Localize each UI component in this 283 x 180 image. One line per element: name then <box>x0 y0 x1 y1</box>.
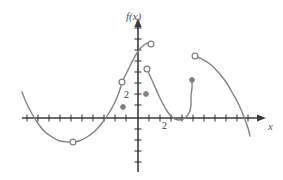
y-axis-tick-label-2: 2 <box>124 89 129 100</box>
x-axis-arrow <box>257 114 266 121</box>
filled-dot-marker <box>121 105 126 110</box>
curve-branch-5-right-arch <box>195 56 250 136</box>
x-axis-tick-label-2: 2 <box>162 120 167 131</box>
curve-branch-1-left-parabola <box>22 82 122 142</box>
open-circle-marker <box>144 66 150 72</box>
function-graph-figure: f(x) x 2 2 <box>0 0 283 180</box>
curve-branch-2-rise-to-peak <box>122 43 151 82</box>
open-circle-marker <box>148 41 154 47</box>
filled-dot-marker <box>190 78 195 83</box>
plot-canvas <box>0 0 283 180</box>
filled-dot-marker <box>144 92 149 97</box>
x-axis-label: x <box>268 120 273 132</box>
y-axis-label: f(x) <box>126 10 141 22</box>
open-circle-marker <box>70 139 76 145</box>
curve-branch-3-descend-to-valley <box>147 69 190 120</box>
open-circle-marker <box>192 53 198 59</box>
open-circle-marker <box>119 79 125 85</box>
curve-branches-group <box>22 43 250 142</box>
curve-branch-4-sharp-rise <box>190 80 192 111</box>
